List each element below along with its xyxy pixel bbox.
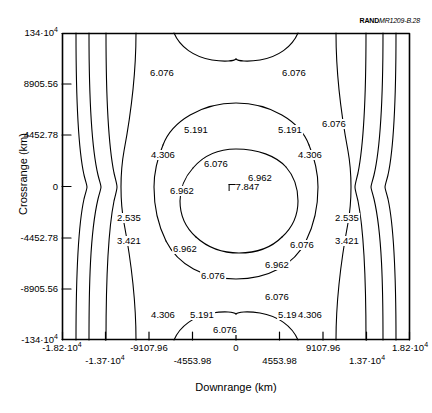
x-axis-tick-labels: -1.82·104-1.37·104-9107.96-4553.9804553.…	[62, 343, 410, 377]
contour-level-label: 6.962	[264, 260, 290, 270]
contour-6962-inner-bottom	[196, 237, 282, 253]
x-tick-label: -4553.98	[174, 356, 212, 366]
y-axis-ticks	[62, 34, 71, 340]
contour-level-label: 2.535	[334, 213, 360, 223]
contour-level-label: 6.962	[247, 173, 273, 183]
contour-level-label: 4.306	[150, 310, 176, 320]
y-tick-label: 0	[53, 182, 58, 192]
y-axis-tick-labels: 134·1048905.564452.780-4452.78-8905.56-1…	[0, 33, 58, 340]
contour-level-label: 6.076	[281, 68, 307, 78]
x-tick-label: 1.82·104	[392, 343, 428, 353]
contour-level-label: 6.076	[203, 159, 229, 169]
contour-level-label: 3.421	[334, 236, 360, 246]
x-tick-label: 4553.98	[262, 356, 296, 366]
y-axis-title: Crossrange (km)	[17, 104, 29, 244]
x-tick-label: 1.37·104	[349, 356, 385, 366]
x-tick-label: 9107.96	[306, 343, 340, 353]
contour-figure: RANDMR1209-B.28 134·1048905.564452.780-4…	[0, 0, 432, 413]
contour-6962-inner-left	[180, 168, 196, 237]
contour-6962-inner-right	[282, 167, 298, 237]
contour-level-label: 6.076	[212, 325, 238, 335]
x-tick-label: 0	[233, 343, 238, 353]
contour-level-label: 5.191	[189, 310, 215, 320]
x-axis-title: Downrange (km)	[62, 381, 410, 393]
rand-credit-line: RANDMR1209-B.28	[360, 16, 420, 25]
y-tick-label: 8905.56	[24, 79, 58, 89]
contour-2535-left	[76, 33, 87, 340]
contour-level-label: 5.191	[183, 125, 209, 135]
x-tick-label: -1.37·104	[85, 356, 124, 366]
document-id-label: MR1209-B.28	[379, 17, 420, 24]
contour-level-label: 6.076	[264, 292, 290, 302]
x-tick-label: -9107.96	[130, 343, 168, 353]
y-tick-label: 134·104	[25, 28, 59, 38]
peak-value-marker: 7.847	[229, 182, 260, 192]
contour-level-label: 2.535	[116, 213, 142, 223]
contour-5191-right	[336, 33, 351, 340]
contour-level-label: 6.962	[169, 186, 195, 196]
contour-level-label: 6.076	[289, 240, 315, 250]
contour-4306-left	[106, 33, 117, 340]
contour-2535-right	[385, 33, 396, 340]
contour-level-label: 6.962	[172, 244, 198, 254]
contour-level-label: 6.076	[321, 119, 347, 129]
x-tick-label: -1.82·104	[42, 343, 81, 353]
contour-level-label: 4.306	[297, 310, 323, 320]
contour-level-label: 5.191	[277, 125, 303, 135]
contour-3421-left	[89, 33, 101, 340]
contour-6076-top-left	[174, 33, 236, 61]
contour-level-label: 6.076	[149, 68, 175, 78]
contour-level-label: 4.306	[297, 150, 323, 160]
contour-6076-top-right	[236, 33, 298, 61]
contour-plot-area: 7.847 6.0766.0765.1916.0765.1914.3066.07…	[62, 33, 410, 340]
contour-level-label: 3.421	[116, 236, 142, 246]
y-tick-label: -8905.56	[20, 284, 58, 294]
contour-4306-right	[355, 33, 366, 340]
contour-3421-right	[371, 33, 383, 340]
contour-level-label: 6.076	[200, 271, 226, 281]
contour-5191-left	[121, 33, 136, 340]
contour-level-label: 4.306	[150, 150, 176, 160]
publisher-label: RAND	[360, 17, 379, 24]
corner-marker-icon	[229, 184, 236, 191]
